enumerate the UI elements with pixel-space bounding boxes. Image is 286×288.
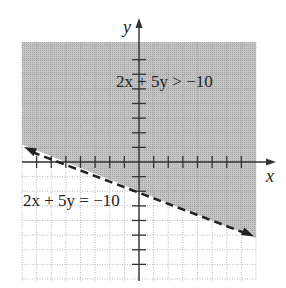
inequality-label: 2x + 5y > −10	[116, 72, 213, 91]
inequality-graph: x y 2x + 5y > −10 2x + 5y = −10	[0, 0, 286, 288]
x-axis-label: x	[265, 166, 274, 186]
x-axis-arrow-icon	[266, 159, 276, 166]
line-arrow-left-icon	[24, 147, 37, 156]
equation-label: 2x + 5y = −10	[23, 191, 120, 210]
y-axis-arrow-icon	[136, 18, 143, 28]
y-axis-label: y	[121, 17, 131, 37]
